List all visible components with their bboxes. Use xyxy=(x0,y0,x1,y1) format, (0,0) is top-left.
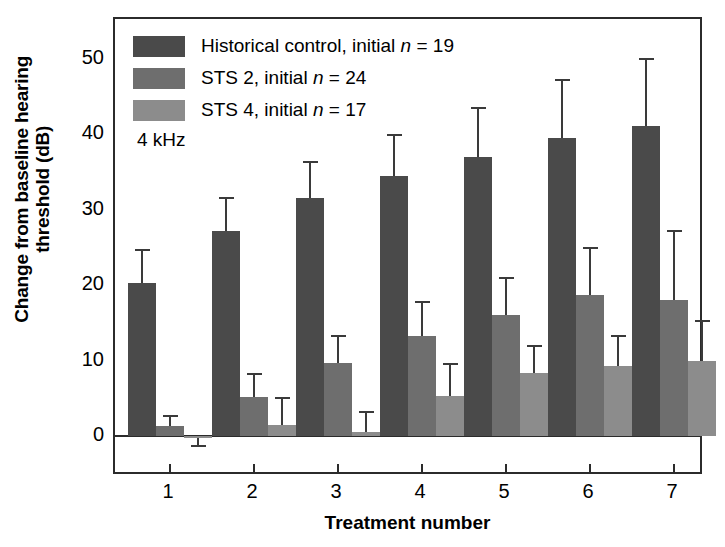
error-bar-stem xyxy=(505,278,507,315)
x-tick-mark xyxy=(169,464,171,472)
error-bar-cap xyxy=(191,445,206,447)
bar xyxy=(604,366,632,436)
y-tick-label: 30 xyxy=(60,196,104,219)
x-tick-label: 3 xyxy=(316,480,356,503)
error-bar-stem xyxy=(225,198,227,231)
error-bar-cap xyxy=(499,277,514,279)
bar xyxy=(688,361,716,436)
error-bar-stem xyxy=(477,108,479,157)
error-bar-cap xyxy=(247,373,262,375)
error-bar-cap xyxy=(667,230,682,232)
bar xyxy=(296,198,324,436)
y-tick-label: 20 xyxy=(60,272,104,295)
bar xyxy=(408,336,436,436)
error-bar-stem xyxy=(365,412,367,432)
x-tick-label: 1 xyxy=(148,480,188,503)
error-bar-stem xyxy=(701,321,703,361)
x-tick-mark xyxy=(673,464,675,472)
legend-swatch xyxy=(133,36,185,57)
error-bar-cap xyxy=(611,335,626,337)
bar xyxy=(548,138,576,436)
x-tick-mark xyxy=(589,464,591,472)
bar xyxy=(324,363,352,436)
x-tick-label: 2 xyxy=(232,480,272,503)
error-bar-stem xyxy=(141,250,143,283)
error-bar-cap xyxy=(135,249,150,251)
y-tick-label: 10 xyxy=(60,347,104,370)
bar xyxy=(128,283,156,436)
error-bar-stem xyxy=(673,231,675,300)
error-bar-cap xyxy=(163,415,178,417)
x-tick-label: 5 xyxy=(484,480,524,503)
legend-item: Historical control, initial n = 19 xyxy=(133,31,454,61)
error-bar-cap xyxy=(527,345,542,347)
bar xyxy=(520,373,548,436)
x-tick-mark xyxy=(505,464,507,472)
legend-swatch xyxy=(133,68,185,89)
legend-label: Historical control, initial n = 19 xyxy=(201,35,454,57)
error-bar-stem xyxy=(589,248,591,296)
error-bar-stem xyxy=(533,346,535,373)
bar xyxy=(212,231,240,436)
bar xyxy=(464,157,492,436)
plot-area: Historical control, initial n = 19STS 2,… xyxy=(113,17,702,474)
x-axis-title: Treatment number xyxy=(113,512,702,534)
error-bar-stem xyxy=(393,135,395,176)
error-bar-stem xyxy=(561,80,563,138)
bar xyxy=(436,396,464,436)
bar xyxy=(576,295,604,436)
x-tick-label: 6 xyxy=(568,480,608,503)
y-tick-label: 50 xyxy=(60,46,104,69)
legend-label: STS 2, initial n = 24 xyxy=(201,67,366,89)
x-tick-mark xyxy=(421,464,423,472)
error-bar-cap xyxy=(219,197,234,199)
bar xyxy=(632,126,660,436)
error-bar-stem xyxy=(645,59,647,126)
x-tick-label: 4 xyxy=(400,480,440,503)
y-axis-title: Change from baseline hearing threshold (… xyxy=(11,0,54,389)
legend-label: STS 4, initial n = 17 xyxy=(201,99,366,121)
error-bar-cap xyxy=(471,107,486,109)
frequency-annotation: 4 kHz xyxy=(137,129,186,151)
bar xyxy=(492,315,520,436)
error-bar-stem xyxy=(281,398,283,425)
error-bar-cap xyxy=(275,397,290,399)
x-tick-mark xyxy=(337,464,339,472)
legend: Historical control, initial n = 19STS 2,… xyxy=(133,31,454,127)
error-bar-cap xyxy=(415,301,430,303)
error-bar-stem xyxy=(169,416,171,426)
error-bar-cap xyxy=(695,320,710,322)
bar xyxy=(240,397,268,436)
error-bar-stem xyxy=(309,162,311,198)
bar xyxy=(156,426,184,436)
chart-page: Change from baseline hearing threshold (… xyxy=(0,0,725,547)
legend-swatch xyxy=(133,100,185,121)
error-bar-stem xyxy=(337,336,339,362)
x-tick-mark xyxy=(253,464,255,472)
x-tick-label: 7 xyxy=(652,480,692,503)
y-tick-label: 40 xyxy=(60,121,104,144)
error-bar-cap xyxy=(583,247,598,249)
error-bar-cap xyxy=(443,363,458,365)
bar xyxy=(352,432,380,436)
error-bar-cap xyxy=(331,335,346,337)
error-bar-cap xyxy=(359,411,374,413)
error-bar-stem xyxy=(253,374,255,397)
legend-item: STS 4, initial n = 17 xyxy=(133,95,454,125)
error-bar-stem xyxy=(449,364,451,396)
bar xyxy=(268,425,296,436)
error-bar-cap xyxy=(639,58,654,60)
bar xyxy=(380,176,408,436)
legend-item: STS 2, initial n = 24 xyxy=(133,63,454,93)
error-bar-cap xyxy=(555,79,570,81)
error-bar-cap xyxy=(387,134,402,136)
y-tick-label: 0 xyxy=(60,423,104,446)
y-axis-title-line1: Change from baseline hearing xyxy=(11,0,32,389)
bar xyxy=(660,300,688,436)
error-bar-stem xyxy=(617,336,619,366)
y-axis-title-line2: threshold (dB) xyxy=(32,0,53,389)
error-bar-cap xyxy=(303,161,318,163)
error-bar-stem xyxy=(421,302,423,337)
